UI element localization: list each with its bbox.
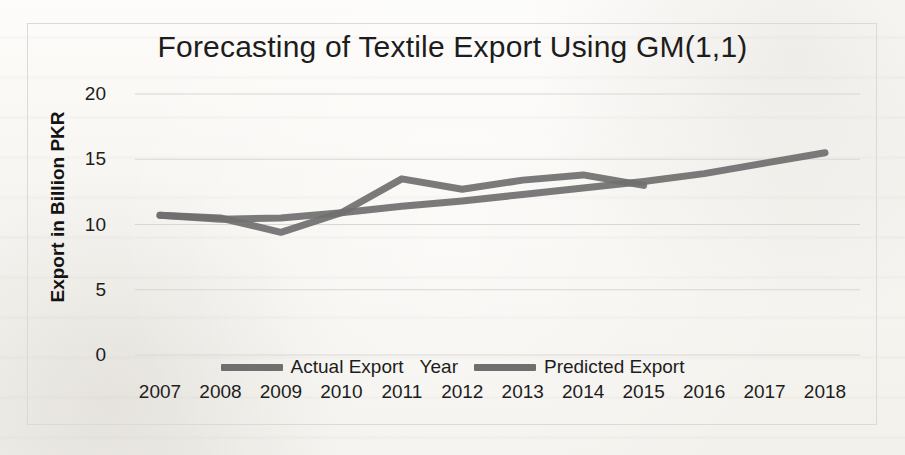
- legend-swatch-actual-export: [221, 364, 283, 371]
- chart-legend: Actual Export Year Predicted Export: [0, 356, 905, 378]
- legend-item-predicted-export: Predicted Export: [474, 356, 684, 378]
- plot-lines: [0, 0, 905, 455]
- x-axis-title: Year: [414, 356, 464, 378]
- legend-label-actual-export: Actual Export: [291, 356, 404, 378]
- legend-item-actual-export: Actual Export: [221, 356, 404, 378]
- legend-swatch-predicted-export: [474, 364, 536, 371]
- legend-label-predicted-export: Predicted Export: [544, 356, 684, 378]
